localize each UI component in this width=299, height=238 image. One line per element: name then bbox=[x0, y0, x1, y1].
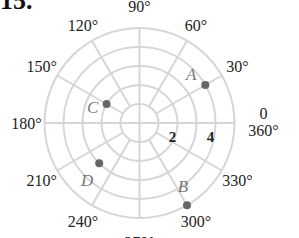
angle-label: 60° bbox=[185, 17, 207, 34]
angle-label: 210° bbox=[26, 172, 56, 189]
angle-label: 180° bbox=[11, 115, 41, 132]
angle-label: 90° bbox=[128, 0, 150, 15]
point-a bbox=[201, 81, 209, 89]
angle-label: 270° bbox=[124, 234, 154, 238]
point-b bbox=[183, 201, 191, 209]
polar-diagram: 15. 24030°60°90°120°150°180°210°240°270°… bbox=[0, 0, 299, 238]
radial-tick-label: 2 bbox=[169, 129, 177, 145]
angle-label: 360° bbox=[248, 122, 278, 139]
angle-label: 240° bbox=[68, 213, 98, 230]
point-label: A bbox=[185, 65, 197, 84]
angle-label: 120° bbox=[68, 17, 98, 34]
polar-grid: 24030°60°90°120°150°180°210°240°270°300°… bbox=[0, 0, 299, 238]
angle-label: 30° bbox=[226, 58, 248, 75]
angle-label: 0 bbox=[259, 105, 267, 122]
radial-tick-label: 4 bbox=[207, 129, 215, 145]
angle-label: 330° bbox=[222, 172, 252, 189]
point-label: C bbox=[87, 98, 99, 117]
angle-label: 300° bbox=[181, 213, 211, 230]
point-c bbox=[103, 100, 111, 108]
point-label: B bbox=[178, 177, 189, 196]
point-label: D bbox=[80, 171, 94, 190]
point-d bbox=[95, 159, 103, 167]
angle-label: 150° bbox=[26, 58, 56, 75]
